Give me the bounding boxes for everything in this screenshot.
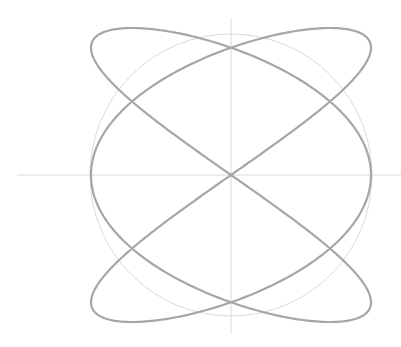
- lissajous-diagram: [0, 0, 401, 347]
